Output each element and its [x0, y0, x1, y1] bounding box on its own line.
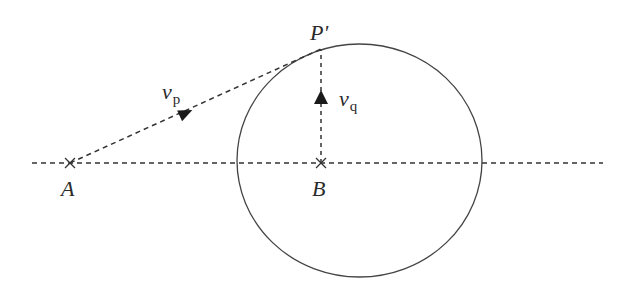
- vector-vp-line: [70, 49, 321, 163]
- vp-subscript: p: [173, 91, 181, 107]
- point-a-label: A: [59, 176, 75, 201]
- vq-arrowhead-icon: [314, 90, 328, 104]
- point-b-label: B: [312, 176, 325, 201]
- diagram-svg: A B P' vp vq: [0, 0, 627, 285]
- vp-arrowhead-icon: [177, 105, 195, 122]
- vq-label: vq: [339, 86, 358, 114]
- circle: [237, 44, 482, 277]
- point-a-cross-icon: [65, 158, 75, 168]
- diagram-canvas: A B P' vp vq: [0, 0, 627, 285]
- vq-symbol: v: [339, 86, 349, 111]
- vp-label: vp: [162, 79, 180, 107]
- vq-subscript: q: [350, 98, 358, 114]
- point-p-prime-label: P': [309, 20, 328, 45]
- vp-symbol: v: [162, 79, 172, 104]
